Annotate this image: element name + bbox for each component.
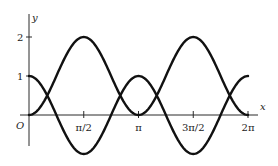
curves xyxy=(29,37,248,154)
y-tick-label: 2 xyxy=(17,32,23,43)
y-ticks: 12 xyxy=(17,32,32,82)
x-axis-label: x xyxy=(260,101,266,112)
x-tick-label: π xyxy=(135,122,142,133)
y-tick-label: 1 xyxy=(17,71,23,82)
chart: y x O 12 π/2π3π/22π xyxy=(0,0,278,166)
x-tick-label: π/2 xyxy=(76,122,92,133)
x-tick-label: 2π xyxy=(242,122,255,133)
origin-label: O xyxy=(16,120,24,131)
y-axis-label: y xyxy=(31,12,38,23)
x-tick-label: 3π/2 xyxy=(182,122,205,133)
